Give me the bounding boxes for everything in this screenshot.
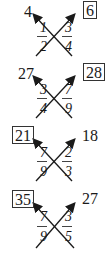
right-fraction-bar <box>62 161 72 162</box>
right-numerator: 2 <box>65 146 72 160</box>
right-product-boxed: 6 <box>83 1 97 19</box>
left-numerator: 3 <box>40 83 47 97</box>
cross-multiply-diagram-1: 4 6 1 2 3 4 <box>0 0 108 63</box>
right-denominator: 5 <box>65 230 72 244</box>
left-denominator: 9 <box>40 230 47 244</box>
cross-multiply-diagram-2: 27 28 3 4 7 9 <box>0 62 108 125</box>
left-fraction-bar <box>37 36 47 37</box>
right-denominator: 9 <box>65 102 72 116</box>
right-denominator: 3 <box>65 165 72 179</box>
right-numerator: 7 <box>65 83 72 97</box>
left-numerator: 7 <box>40 210 47 224</box>
right-numerator: 3 <box>65 210 72 224</box>
right-fraction-bar <box>62 36 72 37</box>
left-product-boxed: 21 <box>12 126 34 144</box>
left-fraction-bar <box>37 226 47 227</box>
right-fraction-bar <box>62 226 72 227</box>
left-denominator: 4 <box>40 102 47 116</box>
left-product: 27 <box>18 66 34 82</box>
left-denominator: 9 <box>40 165 47 179</box>
left-denominator: 2 <box>40 40 47 54</box>
right-product-boxed: 28 <box>83 63 105 81</box>
left-numerator: 1 <box>40 21 47 35</box>
left-fraction-bar <box>37 98 47 99</box>
left-fraction-bar <box>37 161 47 162</box>
right-numerator: 3 <box>65 21 72 35</box>
left-product-boxed: 35 <box>12 190 34 208</box>
right-fraction-bar <box>62 98 72 99</box>
left-numerator: 7 <box>40 146 47 160</box>
cross-multiply-diagram-3: 21 18 7 9 2 3 <box>0 124 108 187</box>
right-product: 18 <box>82 128 98 144</box>
left-product: 4 <box>24 4 32 20</box>
right-product: 27 <box>82 191 98 207</box>
right-denominator: 4 <box>65 40 72 54</box>
cross-multiply-diagram-4: 35 27 7 9 3 5 <box>0 188 108 253</box>
